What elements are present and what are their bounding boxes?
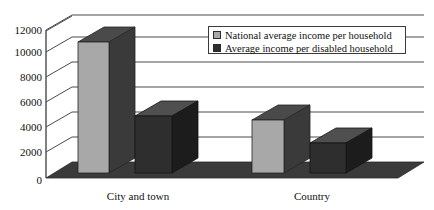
legend-label-national-average: National average income per household	[225, 30, 392, 41]
x-axis-category-labels: City and town Country	[107, 190, 331, 202]
y-tick-12000: 12000	[15, 24, 43, 36]
bar-chart: 12000 10000 8000 6000 4000 2000 0 City a…	[0, 0, 434, 210]
bar-city-national-average	[78, 27, 135, 173]
x-label-country: Country	[294, 190, 331, 202]
y-tick-0: 0	[37, 174, 43, 186]
series-2-swatch-icon	[213, 44, 221, 52]
gridline-12000-riser	[46, 16, 72, 31]
y-axis-tick-labels: 12000 10000 8000 6000 4000 2000 0	[15, 24, 43, 186]
x-label-city-and-town: City and town	[107, 190, 170, 202]
chart-legend: National average income per household Av…	[208, 26, 406, 54]
legend-label-disabled-average: Average income per disabled household	[225, 43, 393, 54]
legend-item-disabled-average: Average income per disabled household	[213, 42, 402, 54]
y-tick-4000: 4000	[20, 121, 43, 133]
bar-country-national-average	[252, 105, 310, 173]
y-tick-6000: 6000	[20, 96, 43, 108]
y-tick-10000: 10000	[15, 46, 43, 58]
series-1-swatch-icon	[213, 31, 221, 39]
y-tick-8000: 8000	[20, 71, 43, 83]
y-tick-2000: 2000	[20, 146, 43, 158]
legend-item-national-average: National average income per household	[213, 29, 402, 41]
bar-city-disabled-average	[135, 101, 198, 173]
